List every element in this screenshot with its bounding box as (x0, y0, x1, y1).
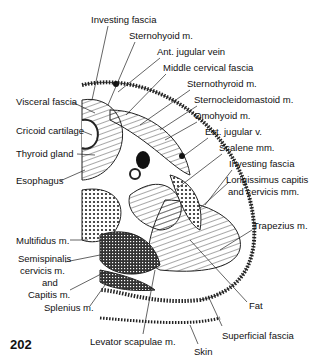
label-ant-jugular-vein: Ant. jugular vein (157, 46, 225, 57)
label-skin: Skin (194, 346, 212, 357)
label-semispinalis-4: Capitis m. (28, 289, 70, 300)
label-longissimus-line2: and cervicis mm. (228, 186, 299, 197)
label-semispinalis-1: Semispinalis (18, 253, 71, 264)
label-visceral-fascia: Visceral fascia (16, 96, 77, 107)
label-sternothyroid: Sternothyroid m. (187, 78, 257, 89)
label-fat: Fat (249, 300, 263, 311)
label-splenius: Splenius m. (44, 302, 94, 313)
label-investing-fascia-top: Investing fascia (91, 14, 156, 25)
label-superficial-fascia: Superficial fascia (222, 330, 294, 341)
label-levator-scapulae: Levator scapulae m. (90, 336, 176, 347)
label-omohyoid: Omohyoid m. (194, 110, 251, 121)
label-middle-cervical-fascia: Middle cervical fascia (163, 62, 253, 73)
label-longissimus-line1: Longissimus capitis (226, 174, 308, 185)
label-semispinalis-3: and (42, 277, 58, 288)
label-investing-fascia-mid: Investing fascia (229, 158, 294, 169)
label-ext-jugular: Ext. jugular v. (205, 126, 262, 137)
label-thyroid-gland: Thyroid gland (16, 148, 74, 159)
label-sternohyoid: Sternohyoid m. (129, 30, 193, 41)
label-sternocleidomastoid: Sternocleidomastoid m. (194, 94, 293, 105)
carotid-artery (136, 151, 150, 169)
label-cricoid-cartilage: Cricoid cartilage (16, 125, 84, 136)
label-semispinalis-2: cervicis m. (20, 265, 65, 276)
label-esophagus: Esophagus (16, 175, 64, 186)
label-multifidus: Multifidus m. (16, 235, 69, 246)
scalene-region (129, 184, 181, 230)
lower-skin (100, 318, 220, 323)
label-scalene: Scalene mm. (219, 142, 274, 153)
page-number: 202 (10, 337, 32, 352)
label-trapezius: Trapezius m. (253, 220, 308, 231)
